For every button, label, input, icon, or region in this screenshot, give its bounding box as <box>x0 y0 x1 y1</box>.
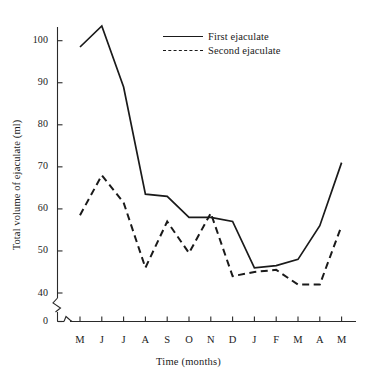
x-tick-label: M <box>70 334 90 345</box>
x-tick-label: M <box>332 334 352 345</box>
chart-legend: First ejaculate Second ejaculate <box>163 30 280 58</box>
x-tick-label: F <box>266 334 286 345</box>
x-tick-label: A <box>310 334 330 345</box>
x-axis-title: Time (months) <box>0 356 377 367</box>
x-tick-label: D <box>223 334 243 345</box>
x-tick-label: S <box>157 334 177 345</box>
legend-line-solid-icon <box>163 32 203 42</box>
y-tick-label: 80 <box>20 118 48 129</box>
legend-label-first: First ejaculate <box>208 30 269 44</box>
legend-label-second: Second ejaculate <box>208 44 280 58</box>
chart-figure: Total volume of ejaculate (ml) 040506070… <box>0 0 377 380</box>
legend-line-dashed-icon <box>163 46 203 56</box>
x-tick-label: J <box>244 334 264 345</box>
y-tick-label: 70 <box>20 160 48 171</box>
legend-item-first-ejaculate: First ejaculate <box>163 30 280 44</box>
axis-ticks <box>58 41 342 322</box>
axis-lines <box>53 27 356 322</box>
y-tick-label: 100 <box>20 34 48 45</box>
x-tick-label: A <box>135 334 155 345</box>
y-tick-label: 90 <box>20 76 48 87</box>
x-tick-label: J <box>114 334 134 345</box>
x-tick-label: J <box>92 334 112 345</box>
x-tick-label: O <box>179 334 199 345</box>
series-line-first-ejaculate <box>80 26 342 268</box>
y-tick-label: 40 <box>20 287 48 298</box>
x-tick-label: N <box>201 334 221 345</box>
y-tick-label: 50 <box>20 244 48 255</box>
legend-item-second-ejaculate: Second ejaculate <box>163 44 280 58</box>
series-line-second-ejaculate <box>80 175 342 284</box>
data-series-layer <box>80 26 342 285</box>
y-tick-label: 60 <box>20 202 48 213</box>
y-tick-label: 0 <box>20 315 48 326</box>
x-tick-label: M <box>288 334 308 345</box>
